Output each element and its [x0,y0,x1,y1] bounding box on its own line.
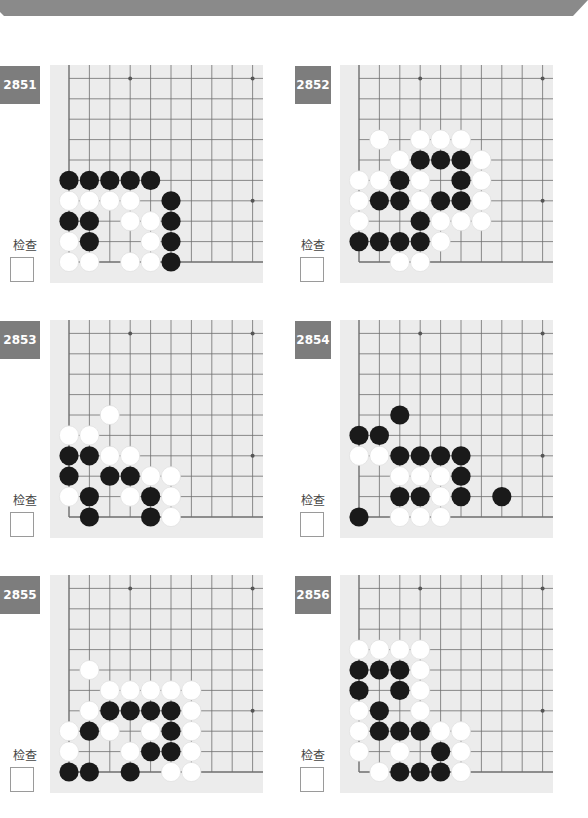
black-stone-icon [349,232,368,251]
go-board[interactable] [340,320,553,538]
white-stone-icon [100,446,119,465]
problem-2856: 2856 检查 [290,575,560,805]
star-point-icon [541,454,545,458]
black-stone-icon [411,487,430,506]
white-stone-icon [472,171,491,190]
white-stone-icon [390,150,409,169]
black-stone-icon [161,722,180,741]
white-stone-icon [121,487,140,506]
star-point-icon [541,331,545,335]
white-stone-icon [59,252,78,271]
check-label: 检查 [298,236,328,253]
white-stone-icon [59,487,78,506]
white-stone-icon [431,212,450,231]
problem-2851: 2851 检查 [0,65,270,295]
board-grid [340,65,553,283]
white-stone-icon [411,507,430,526]
white-stone-icon [141,722,160,741]
star-point-icon [128,586,132,590]
black-stone-icon [80,487,99,506]
go-board[interactable] [340,65,553,283]
white-stone-icon [390,467,409,486]
white-stone-icon [59,232,78,251]
white-stone-icon [349,171,368,190]
problem-2855: 2855 检查 [0,575,270,805]
white-stone-icon [59,191,78,210]
go-board[interactable] [340,575,553,793]
white-stone-icon [161,762,180,781]
black-stone-icon [161,742,180,761]
black-stone-icon [59,467,78,486]
check-label: 检查 [10,236,40,253]
problem-number-badge: 2852 [295,66,331,104]
black-stone-icon [492,487,511,506]
white-stone-icon [80,191,99,210]
white-stone-icon [431,130,450,149]
white-stone-icon [59,426,78,445]
white-stone-icon [411,171,430,190]
star-point-icon [418,76,422,80]
black-stone-icon [390,762,409,781]
black-stone-icon [390,487,409,506]
black-stone-icon [161,701,180,720]
black-stone-icon [59,212,78,231]
star-point-icon [541,709,545,713]
black-stone-icon [80,507,99,526]
black-stone-icon [370,426,389,445]
star-point-icon [541,586,545,590]
white-stone-icon [451,762,470,781]
black-stone-icon [161,191,180,210]
black-stone-icon [80,446,99,465]
white-stone-icon [59,742,78,761]
white-stone-icon [141,681,160,700]
black-stone-icon [370,191,389,210]
black-stone-icon [80,722,99,741]
black-stone-icon [141,487,160,506]
go-board[interactable] [50,320,263,538]
white-stone-icon [431,507,450,526]
board-grid [340,320,553,538]
black-stone-icon [121,701,140,720]
black-stone-icon [451,467,470,486]
white-stone-icon [451,212,470,231]
black-stone-icon [349,507,368,526]
white-stone-icon [80,660,99,679]
check-checkbox[interactable] [300,767,324,792]
white-stone-icon [182,762,201,781]
black-stone-icon [100,467,119,486]
white-stone-icon [349,212,368,231]
check-label: 检查 [10,491,40,508]
go-board[interactable] [50,65,263,283]
black-stone-icon [390,446,409,465]
check-checkbox[interactable] [10,512,34,537]
go-board[interactable] [50,575,263,793]
white-stone-icon [390,742,409,761]
check-checkbox[interactable] [10,767,34,792]
star-point-icon [251,331,255,335]
black-stone-icon [161,212,180,231]
white-stone-icon [161,507,180,526]
black-stone-icon [161,252,180,271]
check-checkbox[interactable] [300,512,324,537]
white-stone-icon [121,742,140,761]
black-stone-icon [411,212,430,231]
white-stone-icon [349,640,368,659]
header-banner [0,0,588,16]
black-stone-icon [411,762,430,781]
star-point-icon [128,331,132,335]
board-grid [50,575,263,793]
white-stone-icon [349,191,368,210]
white-stone-icon [80,426,99,445]
check-checkbox[interactable] [10,257,34,282]
black-stone-icon [411,232,430,251]
white-stone-icon [141,467,160,486]
black-stone-icon [390,722,409,741]
star-point-icon [418,586,422,590]
check-checkbox[interactable] [300,257,324,282]
black-stone-icon [59,171,78,190]
white-stone-icon [431,487,450,506]
star-point-icon [251,709,255,713]
black-stone-icon [100,171,119,190]
white-stone-icon [431,232,450,251]
white-stone-icon [451,742,470,761]
